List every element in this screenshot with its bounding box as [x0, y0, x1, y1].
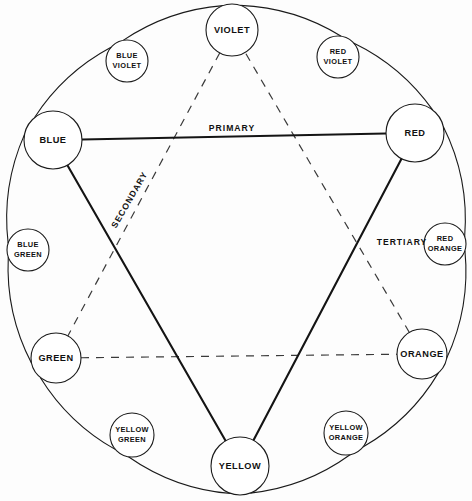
node-label-yellow-line1: YELLOW [219, 461, 261, 471]
node-violet[interactable]: VIOLET [206, 4, 258, 56]
node-label-blue-line1: BLUE [39, 135, 66, 145]
node-label-orange-line1: ORANGE [400, 349, 443, 359]
node-label-yellow-orange-line2: ORANGE [329, 433, 364, 442]
tertiary-label: TERTIARY [377, 237, 428, 247]
wheel-arc-red-orange-to-orange [447, 251, 466, 359]
node-label-blue-violet-line2: VIOLET [113, 61, 142, 70]
node-label-red-orange-line2: ORANGE [428, 244, 463, 253]
node-label-yellow-orange-line1: YELLOW [329, 423, 363, 432]
edge-green-to-orange [81, 354, 397, 357]
node-label-yellow-green-line1: YELLOW [115, 425, 149, 434]
node-label-yellow-green-line2: GREEN [118, 435, 146, 444]
node-yellow-orange[interactable]: YELLOWORANGE [324, 411, 368, 455]
wheel-arc-blue-green-to-blue [7, 134, 25, 243]
node-yellow[interactable]: YELLOW [211, 437, 269, 495]
node-label-red-line1: RED [405, 128, 426, 138]
wheel-arc-green-to-blue-green [8, 257, 32, 363]
node-blue-green[interactable]: BLUEGREEN [7, 229, 49, 271]
wheel-arc-red-violet-to-red [354, 43, 433, 110]
edge-blue-to-red [82, 134, 386, 140]
node-label-red-violet-line1: RED [330, 47, 347, 56]
edge-red-to-yellow [253, 159, 401, 441]
edge-violet-to-green [68, 53, 220, 336]
node-orange[interactable]: ORANGE [397, 329, 447, 379]
node-label-green-line1: GREEN [38, 353, 73, 363]
node-red[interactable]: RED [386, 104, 444, 162]
wheel-arc-yellow-green-to-green [40, 377, 115, 449]
wheel-arc-orange-to-yellow-orange [363, 373, 438, 447]
node-red-violet[interactable]: REDVIOLET [317, 36, 359, 78]
node-label-violet-line1: VIOLET [214, 25, 250, 35]
node-red-orange[interactable]: REDORANGE [424, 223, 466, 265]
color-wheel-diagram: VIOLETREDVIOLETREDREDORANGEORANGEYELLOWO… [0, 0, 472, 501]
node-green[interactable]: GREEN [31, 333, 81, 383]
node-label-blue-green-line2: GREEN [14, 250, 42, 259]
primary-label: PRIMARY [209, 123, 255, 133]
node-blue[interactable]: BLUE [24, 111, 82, 169]
node-blue-violet[interactable]: BLUEVIOLET [106, 40, 148, 82]
edge-yellow-to-blue [67, 165, 225, 441]
adjacent-node-arcs [7, 5, 466, 493]
node-yellow-green[interactable]: YELLOWGREEN [110, 413, 154, 457]
node-label-red-violet-line2: VIOLET [324, 57, 353, 66]
color-wheel-canvas: VIOLETREDVIOLETREDREDORANGEORANGEYELLOWO… [0, 0, 472, 501]
secondary-label: SECONDARY [109, 170, 149, 230]
node-label-blue-green-line1: BLUE [17, 240, 39, 249]
secondary-triangle [68, 52, 410, 357]
node-label-red-orange-line1: RED [437, 234, 454, 243]
wheel-arc-blue-to-blue-violet [34, 47, 111, 117]
node-label-blue-violet-line1: BLUE [116, 51, 138, 60]
primary-triangle [67, 134, 401, 441]
wheel-arc-red-to-red-orange [443, 126, 465, 236]
